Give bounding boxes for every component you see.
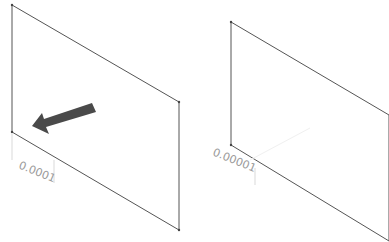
faint-guide-line (250, 128, 310, 160)
left-plane-outline (12, 5, 179, 230)
vertex-point (178, 101, 180, 103)
vertex-point (11, 131, 13, 133)
right-plane (230, 21, 389, 241)
vertex-point (11, 4, 13, 6)
dimension-label-right: 0.00001 (211, 146, 258, 175)
dimension-label-left: 0.0001 (17, 159, 58, 185)
canvas: 0.0001 0.00001 (0, 0, 389, 242)
right-plane-outline (231, 22, 389, 241)
left-plane (11, 4, 180, 231)
vertex-point (178, 229, 180, 231)
vertex-point (230, 144, 232, 146)
diagram-svg: 0.0001 0.00001 (0, 0, 389, 242)
vertex-point (230, 21, 232, 23)
arrow-icon (32, 103, 96, 134)
